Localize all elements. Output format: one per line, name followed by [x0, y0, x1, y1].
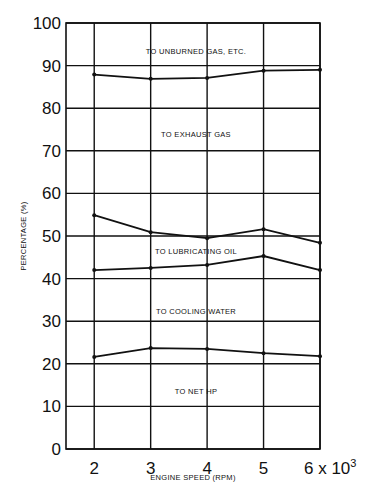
data-point — [92, 73, 96, 77]
data-point — [318, 354, 322, 358]
y-tick-label: 30 — [42, 312, 61, 331]
data-point — [149, 230, 153, 234]
x-tick-label: 2 — [89, 459, 98, 478]
y-tick-label: 80 — [42, 99, 61, 118]
data-point — [205, 76, 209, 80]
y-tick-label: 0 — [52, 440, 61, 459]
region-label: TO COOLING WATER — [156, 307, 236, 316]
data-point — [318, 241, 322, 245]
y-axis-ticks: 0102030405060708090100 — [33, 14, 61, 459]
region-label: TO EXHAUST GAS — [161, 130, 231, 139]
y-tick-label: 90 — [42, 57, 61, 76]
data-point — [149, 346, 153, 350]
data-point — [149, 266, 153, 270]
data-point — [262, 254, 266, 258]
data-point — [262, 227, 266, 231]
data-point — [318, 68, 322, 72]
data-point — [92, 355, 96, 359]
x-tick-label: 6 x 103 — [304, 457, 356, 478]
data-point — [262, 69, 266, 73]
data-point — [262, 351, 266, 355]
data-point — [92, 213, 96, 217]
y-tick-label: 100 — [33, 14, 61, 33]
data-point — [205, 263, 209, 267]
y-tick-label: 60 — [42, 184, 61, 203]
region-label: TO LUBRICATING OIL — [155, 247, 237, 256]
region-label: TO UNBURNED GAS, ETC. — [146, 47, 246, 56]
y-tick-label: 20 — [42, 355, 61, 374]
y-axis-label: PERCENTAGE (%) — [19, 201, 28, 270]
energy-balance-chart: 0102030405060708090100 23456 x 103 TO UN… — [0, 0, 369, 495]
region-labels: TO UNBURNED GAS, ETC.TO EXHAUST GASTO LU… — [146, 47, 246, 397]
y-tick-label: 50 — [42, 227, 61, 246]
region-label: TO NET HP — [175, 387, 217, 396]
y-tick-label: 10 — [42, 397, 61, 416]
x-axis-label: ENGINE SPEED (RPM) — [150, 473, 236, 482]
y-tick-label: 40 — [42, 270, 61, 289]
y-tick-label: 70 — [42, 142, 61, 161]
data-point — [92, 268, 96, 272]
x-tick-label: 5 — [259, 459, 268, 478]
data-point — [205, 236, 209, 240]
data-point — [205, 347, 209, 351]
data-point — [318, 268, 322, 272]
data-point — [149, 77, 153, 81]
